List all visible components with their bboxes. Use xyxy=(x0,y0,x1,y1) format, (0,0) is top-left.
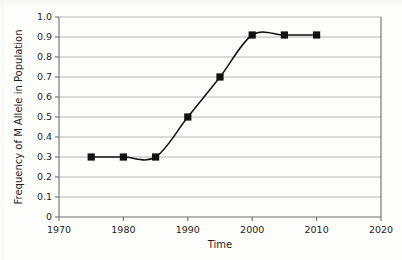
y-axis-tick-label: 0.7 xyxy=(37,71,52,82)
y-axis-tick-label: 0.1 xyxy=(37,191,52,202)
y-axis-ticks xyxy=(55,17,59,217)
x-axis-tick-label: 1990 xyxy=(176,224,200,235)
y-axis-tick-label: 0.8 xyxy=(37,51,52,62)
data-point-marker xyxy=(216,73,223,80)
x-axis-title: Time xyxy=(207,239,232,250)
line-chart: 00.10.20.30.40.50.60.70.80.91.0 19701980… xyxy=(0,0,402,260)
x-axis-ticks xyxy=(59,217,381,221)
data-point-marker xyxy=(152,153,159,160)
data-point-marker xyxy=(249,31,256,38)
y-axis-tick-label: 1.0 xyxy=(37,11,52,22)
x-axis-tick-label: 2000 xyxy=(240,224,264,235)
x-axis-tick-label: 2020 xyxy=(369,224,393,235)
data-point-marker xyxy=(120,153,127,160)
x-axis-tick-labels: 197019801990200020102020 xyxy=(47,224,393,235)
x-axis-tick-label: 1980 xyxy=(111,224,135,235)
chart-screenshot: 00.10.20.30.40.50.60.70.80.91.0 19701980… xyxy=(0,0,402,260)
y-axis-tick-label: 0.6 xyxy=(37,91,52,102)
y-axis-tick-label: 0.5 xyxy=(37,111,52,122)
y-axis-tick-label: 0 xyxy=(46,211,52,222)
y-axis-tick-label: 0.9 xyxy=(37,31,52,42)
y-axis-tick-label: 0.3 xyxy=(37,151,52,162)
y-axis-tick-labels: 00.10.20.30.40.50.60.70.80.91.0 xyxy=(37,11,52,222)
x-axis-tick-label: 2010 xyxy=(305,224,329,235)
x-axis-tick-label: 1970 xyxy=(47,224,71,235)
data-point-marker xyxy=(281,31,288,38)
y-axis-tick-label: 0.2 xyxy=(37,171,52,182)
data-point-marker xyxy=(88,153,95,160)
data-point-marker xyxy=(313,31,320,38)
y-axis-title: Frequency of M Allele in Population xyxy=(13,30,24,205)
y-axis-tick-label: 0.4 xyxy=(37,131,52,142)
data-point-marker xyxy=(184,113,191,120)
